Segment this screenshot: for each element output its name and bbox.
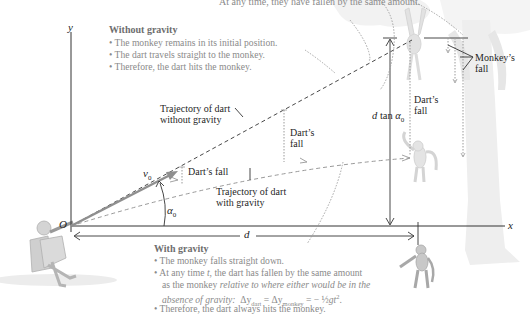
bullet2-line2-italic: relative to where either would be in the (220, 279, 370, 290)
with-gravity-bullet-1: • The monkey falls straight down. (154, 255, 284, 267)
darts-fall-mid-label-line2: fall (290, 138, 303, 149)
darts-fall-right-label-line2: fall (414, 105, 427, 116)
bullet2-line2-prefix: as the monkey (162, 279, 220, 290)
alpha0-arc (160, 183, 165, 226)
without-gravity-bullet-1: • The monkey remains in its initial posi… (109, 37, 277, 49)
darts-fall-right-label-line1: Dart’s (414, 94, 438, 105)
monkeys-fall-label-line2: fall (475, 63, 488, 74)
dtan-tan: tan (377, 110, 395, 121)
with-gravity-bullet-3: • Therefore, the dart always hits the mo… (154, 303, 326, 315)
v0-subscript: 0 (148, 174, 152, 182)
eq-end: . (340, 294, 342, 305)
dtan-subscript: 0 (401, 116, 405, 124)
hunter-icon (0, 221, 117, 286)
monkey-and-dart-diagram: At any time, they have fallen by the sam… (0, 0, 530, 316)
trajectory-with-label-line1: Trajectory of dart (216, 186, 286, 197)
top-caption: At any time, they have fallen by the sam… (219, 0, 420, 7)
alpha0-label: α0 (167, 205, 176, 221)
trajectory-without-label-line1: Trajectory of dart (160, 103, 230, 114)
v0-vector-arrow (71, 171, 178, 226)
height-dtan-arrow (383, 38, 397, 225)
bullet2-prefix: • At any time (154, 267, 207, 278)
distance-d-label: d (244, 229, 250, 240)
tree-illustration (330, 0, 530, 265)
monkey-ground-icon (400, 245, 433, 288)
without-gravity-bullet-3: • Therefore, the dart hits the monkey. (109, 61, 252, 73)
v0-label: v0 (143, 168, 151, 184)
with-gravity-heading: With gravity (154, 243, 209, 254)
origin-label: O (59, 219, 67, 230)
trajectory-with-label-line2: with gravity (216, 197, 265, 208)
trajectory-without-label-line2: without gravity (160, 114, 221, 125)
y-axis-label: y (68, 22, 73, 33)
bullet2-suffix: , the dart has fallen by the same amount (210, 267, 363, 278)
darts-fall-small-label: Dart’s fall (188, 166, 228, 177)
alpha0-subscript: 0 (173, 211, 177, 219)
darts-fall-mid-label-line1: Dart’s (290, 127, 314, 138)
x-axis-label: x (508, 220, 513, 231)
with-gravity-bullet-2-line2: as the monkey relative to where either w… (162, 279, 370, 291)
monkeys-fall-label-line1: Monkey’s (475, 52, 515, 63)
with-gravity-bullet-2: • At any time t, the dart has fallen by … (154, 267, 362, 279)
without-gravity-bullet-2: • The dart travels straight to the monke… (109, 49, 265, 61)
dtan-alpha0-label: d tan α0 (372, 110, 404, 126)
without-gravity-heading: Without gravity (109, 24, 177, 35)
